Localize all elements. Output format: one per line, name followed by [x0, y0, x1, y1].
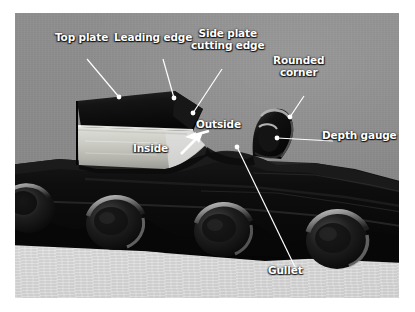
label-rounded-corner-line2: corner [280, 66, 318, 78]
label-inside: Inside [133, 143, 168, 155]
cutter-tooth [77, 91, 211, 174]
label-gullet: Gullet [268, 265, 303, 277]
annotated-photo-figure: Top plate Leading edge Side platecutting… [0, 0, 415, 312]
label-outside: Outside [196, 119, 241, 131]
chain-illustration [15, 13, 399, 298]
label-depth-gauge: Depth gauge [322, 130, 397, 142]
label-side-plate-cutting-edge-line1: Side plate [199, 27, 257, 39]
label-leading-edge: Leading edge [114, 32, 192, 44]
label-top-plate: Top plate [55, 32, 108, 44]
label-rounded-corner: Roundedcorner [273, 55, 324, 78]
label-rounded-corner-line1: Rounded [273, 54, 324, 66]
chainsaw-chain-photograph: Top plate Leading edge Side platecutting… [15, 13, 399, 298]
label-side-plate-cutting-edge: Side platecutting edge [191, 28, 264, 51]
label-side-plate-cutting-edge-line2: cutting edge [191, 39, 264, 51]
depth-gauge-part [253, 109, 294, 159]
